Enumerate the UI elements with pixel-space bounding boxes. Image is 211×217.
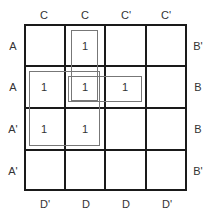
col-label-bottom-3: D xyxy=(116,198,136,210)
row-label-right-2: B xyxy=(188,81,208,93)
row-label-left-1: A xyxy=(3,40,23,52)
row-label-right-1: B' xyxy=(188,40,208,52)
grid-hline xyxy=(24,149,187,151)
cell-r2-c0: 1 xyxy=(34,123,54,135)
row-label-left-4: A' xyxy=(3,165,23,177)
row-label-left-3: A' xyxy=(3,123,23,135)
cell-r0-c1: 1 xyxy=(75,40,95,52)
col-label-top-4: C' xyxy=(156,9,176,21)
col-label-bottom-2: D xyxy=(76,198,96,210)
cell-r1-c2: 1 xyxy=(115,81,135,93)
col-label-top-1: C xyxy=(34,9,54,21)
cell-r1-c1: 1 xyxy=(75,81,95,93)
col-label-top-2: C xyxy=(75,9,95,21)
row-label-left-2: A xyxy=(3,81,23,93)
cell-r1-c0: 1 xyxy=(34,81,54,93)
row-label-right-3: B xyxy=(188,123,208,135)
col-label-bottom-1: D' xyxy=(35,198,55,210)
row-label-right-4: B' xyxy=(188,165,208,177)
grid-hline xyxy=(24,65,187,67)
col-label-top-3: C' xyxy=(116,9,136,21)
cell-r2-c1: 1 xyxy=(75,123,95,135)
col-label-bottom-4: D' xyxy=(157,198,177,210)
